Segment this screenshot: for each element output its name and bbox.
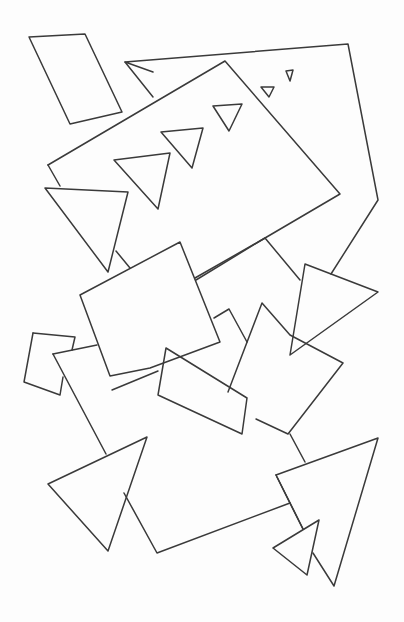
triangle-tiny-1 [286,70,293,81]
tilted-square-main [48,61,340,278]
triangle-tiny-2 [261,87,274,97]
large-square-bottom-right [290,434,305,462]
triangle-left-large [45,188,128,272]
rectangle-tilted-center [158,348,247,434]
triangle-small-3 [213,104,242,131]
triangle-bottom-left [48,437,147,551]
triangle-bottom-right-large [276,438,378,586]
large-square-bottom [53,345,97,354]
tilted-square-main-left [48,165,60,186]
large-square-bottom-body [124,493,290,553]
large-pentagon-back [125,44,378,274]
tilted-square-main-lower-left [116,251,130,268]
small-rectangle-top-left [29,34,122,124]
triangle-bottom-right-large-left [276,475,303,529]
triangle-bottom-right-small [273,520,319,575]
small-pentagon-left-body [24,333,63,395]
square-center-right-top [196,238,300,280]
small-pentagon-left [33,333,75,350]
triangle-medium-5 [114,153,170,209]
pencil-sketch-canvas [0,0,404,622]
triangle-small-4 [161,128,203,168]
large-square-bottom-left [53,354,106,454]
square-center-right-mid [214,309,247,342]
